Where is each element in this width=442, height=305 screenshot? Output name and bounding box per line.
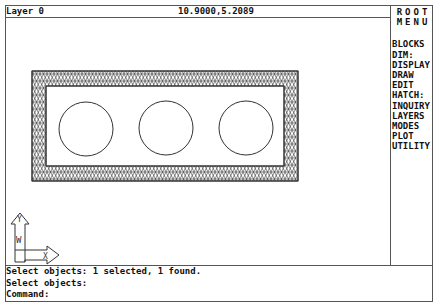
coordinate-readout: 10.9000,5.2089: [178, 5, 254, 17]
menu-item-modes[interactable]: MODES: [392, 121, 433, 131]
command-prompt[interactable]: Command:: [6, 289, 201, 301]
menu-item-blocks[interactable]: BLOCKS: [392, 39, 433, 49]
current-layer[interactable]: Layer 0: [6, 5, 44, 17]
command-area[interactable]: Select objects: 1 selected, 1 found. Sel…: [6, 266, 201, 301]
drawing-area[interactable]: Y W X: [5, 18, 390, 265]
ucs-w-label: W: [16, 235, 22, 245]
ucs-y-label: Y: [17, 215, 22, 224]
circle-middle[interactable]: [139, 101, 193, 155]
menu-title-line2: MENU: [394, 17, 433, 27]
menu-item-draw[interactable]: DRAW: [392, 70, 433, 80]
menu-item-edit[interactable]: EDIT: [392, 80, 433, 90]
menu-item-plot[interactable]: PLOT: [392, 131, 433, 141]
ucs-x-label: X: [43, 252, 48, 261]
screen-menu: ROOT MENU BLOCKS DIM: DISPLAY DRAW EDIT …: [392, 7, 433, 152]
command-history-line: Select objects:: [6, 278, 201, 290]
circle-right[interactable]: [219, 101, 273, 155]
menu-item-display[interactable]: DISPLAY: [392, 60, 433, 70]
menu-items: BLOCKS DIM: DISPLAY DRAW EDIT HATCH: INQ…: [392, 39, 433, 151]
menu-item-layers[interactable]: LAYERS: [392, 111, 433, 121]
menu-item-dim[interactable]: DIM:: [392, 50, 433, 60]
menu-title-line1: ROOT: [394, 7, 433, 17]
command-history-line: Select objects: 1 selected, 1 found.: [6, 266, 201, 278]
outer-boundary: [32, 71, 298, 181]
ucs-icon: Y W X: [11, 213, 59, 264]
hatched-frame[interactable]: [32, 71, 298, 181]
circle-left[interactable]: [59, 102, 113, 156]
menu-item-hatch[interactable]: HATCH:: [392, 90, 433, 100]
inner-boundary: [46, 86, 284, 166]
menu-title: ROOT MENU: [392, 7, 433, 27]
menu-item-utility[interactable]: UTILITY: [392, 141, 433, 151]
status-bar: Layer 0 10.9000,5.2089: [5, 5, 391, 18]
menu-item-inquiry[interactable]: INQUIRY: [392, 101, 433, 111]
menu-divider: [390, 5, 391, 266]
